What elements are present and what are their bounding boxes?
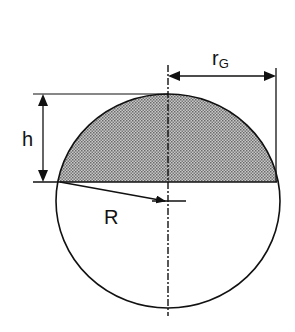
radius-arrow [60,182,165,201]
label-r: R [104,206,118,228]
h-arrowhead-top [38,94,48,106]
h-arrowhead-bottom [38,170,48,182]
label-rg: rG [212,47,229,71]
spherical-cap-diagram: rG h R [0,0,295,332]
label-h: h [22,128,33,150]
rg-arrowhead-right [264,71,276,81]
diagram-canvas: rG h R [0,0,295,332]
rg-arrowhead-left [168,71,180,81]
